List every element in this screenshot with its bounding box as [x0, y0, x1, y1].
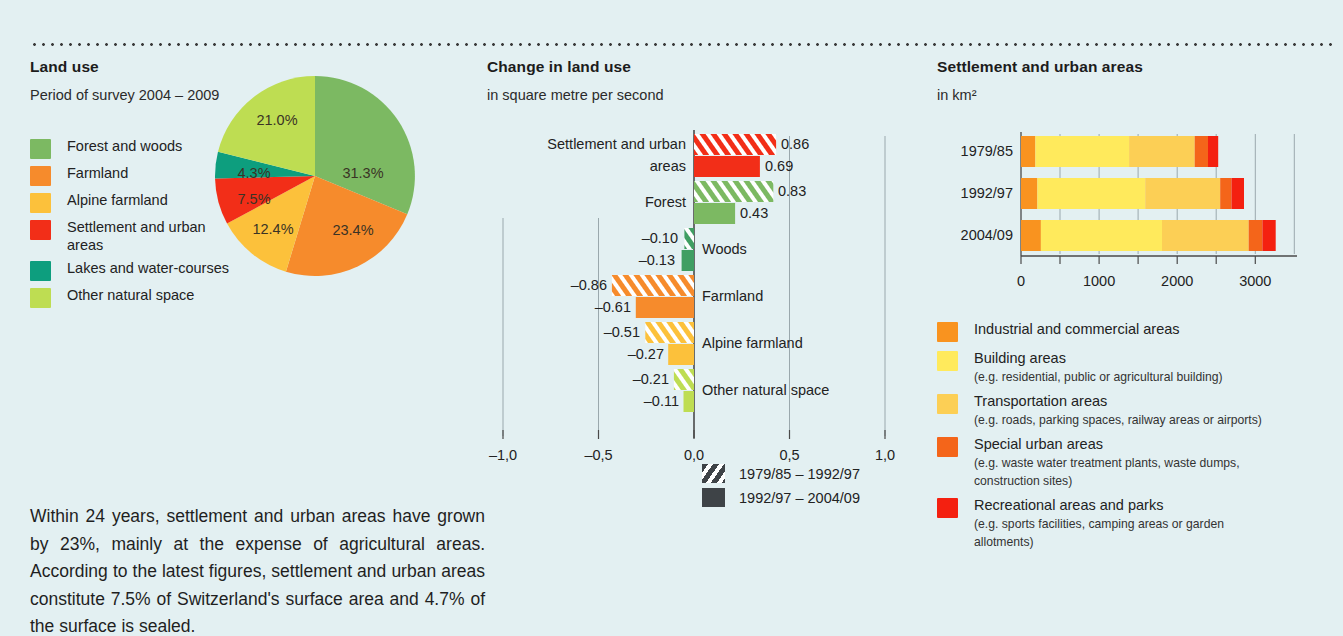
pie-value-lakes: 4.3% — [237, 165, 270, 181]
bar-settlement-1992-2004[interactable] — [694, 156, 760, 177]
settlement-category-2004-09: 2004/09 — [961, 227, 1013, 243]
bar-value-woods-1992-2004: –0.13 — [639, 252, 675, 268]
change-series-legend: 1979/85 – 1992/97 1992/97 – 2004/09 — [702, 464, 860, 512]
legend-label-special-urban: Special urban areas — [974, 436, 1103, 452]
legend-label-other-natural: Other natural space — [67, 287, 194, 305]
bar-value-forest-1979-1992: 0.83 — [778, 183, 806, 199]
bar-category-settlement-line1: Settlement and urban — [547, 136, 686, 152]
segment-industrial-1992[interactable] — [1021, 178, 1037, 209]
bar-category-woods: Woods — [702, 241, 747, 257]
legend-label-period-1979-1992: 1979/85 – 1992/97 — [739, 466, 860, 482]
stacked-bar-1979-85[interactable] — [1021, 136, 1218, 167]
legend-swatch-farmland — [30, 166, 51, 186]
bar-value-farmland-1979-1992: –0.86 — [571, 277, 607, 293]
bar-forest-1992-2004[interactable] — [694, 203, 735, 224]
change-xtick-3: 0,5 — [779, 447, 799, 463]
panel-change-in-land-use: Change in land use in square metre per s… — [487, 58, 907, 104]
settlement-title: Settlement and urban areas — [937, 58, 1337, 76]
bar-woods-1979-1992[interactable] — [684, 228, 694, 249]
settlement-xtick-3000: 3000 — [1239, 273, 1271, 289]
segment-transport-1992[interactable] — [1145, 178, 1220, 209]
segment-industrial-2004[interactable] — [1021, 220, 1041, 251]
top-dotted-divider — [30, 43, 1335, 46]
segment-recreation-1979[interactable] — [1208, 136, 1218, 167]
segment-recreation-2004[interactable] — [1262, 220, 1275, 251]
bar-woods-1992-2004[interactable] — [682, 250, 694, 271]
change-axis-ticks — [503, 430, 885, 439]
legend-item-special-urban[interactable]: Special urban areas (e.g. waste water tr… — [937, 435, 1337, 489]
legend-label-industrial: Industrial and commercial areas — [974, 321, 1180, 337]
legend-swatch-special-urban — [937, 437, 958, 457]
stacked-bar-2004-09[interactable] — [1021, 220, 1276, 251]
legend-item-period-1992-2004[interactable]: 1992/97 – 2004/09 — [702, 488, 860, 507]
legend-swatch-other-natural — [30, 288, 51, 308]
bar-value-other-1992-2004: –0.11 — [644, 393, 679, 409]
change-xtick-1: –0,5 — [584, 447, 612, 463]
settlement-xtick-2000: 2000 — [1161, 273, 1193, 289]
segment-special-1992[interactable] — [1220, 178, 1231, 209]
settlement-xtick-1000: 1000 — [1083, 273, 1115, 289]
segment-special-2004[interactable] — [1249, 220, 1263, 251]
pie-value-settlement: 7.5% — [237, 191, 270, 207]
bar-forest-1979-1992[interactable] — [694, 181, 773, 202]
settlement-svg: 1979/85 1992/97 20 — [937, 120, 1337, 310]
panel-land-use: Land use Period of survey 2004 – 2009 Fo… — [30, 58, 470, 104]
stacked-bar-1992-97[interactable] — [1021, 178, 1244, 209]
segment-building-2004[interactable] — [1041, 220, 1162, 251]
bar-category-forest: Forest — [645, 194, 686, 210]
legend-label-recreational: Recreational areas and parks — [974, 497, 1163, 513]
bar-farmland-1979-1992[interactable] — [612, 275, 694, 296]
bar-value-alpine-1992-2004: –0.27 — [628, 346, 664, 362]
bar-category-other-natural: Other natural space — [702, 382, 829, 398]
legend-label-transport: Transportation areas — [974, 393, 1107, 409]
segment-special-1979[interactable] — [1195, 136, 1208, 167]
pie-value-other-natural: 21.0% — [256, 112, 297, 128]
legend-swatch-hatched — [702, 464, 725, 483]
legend-label-farmland: Farmland — [67, 165, 128, 183]
change-subtitle: in square metre per second — [487, 87, 907, 104]
legend-label-alpine-farmland: Alpine farmland — [67, 192, 168, 210]
settlement-category-1979-85: 1979/85 — [961, 143, 1013, 159]
bar-value-other-1979-1992: –0.21 — [633, 371, 669, 387]
pie-svg: 31.3% 23.4% 12.4% 7.5% 4.3% 21.0% — [205, 68, 440, 283]
land-use-pie-chart: 31.3% 23.4% 12.4% 7.5% 4.3% 21.0% — [205, 68, 440, 288]
legend-note-building: (e.g. residential, public or agricultura… — [974, 370, 1223, 384]
legend-note-transport: (e.g. roads, parking spaces, railway are… — [974, 413, 1262, 427]
legend-item-other-natural[interactable]: Other natural space — [30, 287, 245, 308]
legend-item-transport[interactable]: Transportation areas (e.g. roads, parkin… — [937, 392, 1337, 428]
legend-swatch-transport — [937, 394, 958, 414]
legend-item-recreational[interactable]: Recreational areas and parks (e.g. sport… — [937, 496, 1337, 550]
legend-item-industrial[interactable]: Industrial and commercial areas — [937, 320, 1337, 342]
bar-other-1992-2004[interactable] — [684, 391, 695, 412]
change-xtick-2: 0,0 — [684, 447, 704, 463]
pie-value-forest: 31.3% — [342, 165, 383, 181]
bar-value-settlement-1979-1992: 0.86 — [781, 136, 809, 152]
segment-recreation-1992[interactable] — [1232, 178, 1245, 209]
bar-value-alpine-1979-1992: –0.51 — [604, 324, 640, 340]
bar-alpine-1992-2004[interactable] — [668, 344, 694, 365]
legend-item-period-1979-1992[interactable]: 1979/85 – 1992/97 — [702, 464, 860, 483]
settlement-stacked-bar-chart: 1979/85 1992/97 20 — [937, 120, 1337, 305]
legend-label-period-1992-2004: 1992/97 – 2004/09 — [739, 490, 860, 506]
bar-farmland-1992-2004[interactable] — [636, 297, 694, 318]
bar-value-forest-1992-2004: 0.43 — [740, 205, 768, 221]
legend-note-recreational: (e.g. sports facilities, camping areas o… — [974, 517, 1224, 549]
legend-swatch-solid — [702, 488, 725, 507]
bar-category-settlement-line2: areas — [650, 158, 686, 174]
segment-building-1992[interactable] — [1037, 178, 1145, 209]
segment-transport-1979[interactable] — [1129, 136, 1195, 167]
bar-alpine-1979-1992[interactable] — [645, 322, 694, 343]
segment-industrial-1979[interactable] — [1021, 136, 1035, 167]
legend-swatch-lakes — [30, 261, 51, 281]
change-xtick-4: 1,0 — [875, 447, 895, 463]
bar-other-1979-1992[interactable] — [674, 369, 694, 390]
bar-settlement-1979-1992[interactable] — [694, 134, 776, 155]
bar-value-farmland-1992-2004: –0.61 — [595, 299, 631, 315]
legend-swatch-forest — [30, 139, 51, 159]
bar-value-woods-1979-1992: –0.10 — [642, 230, 678, 246]
summary-paragraph: Within 24 years, settlement and urban ar… — [30, 503, 485, 636]
segment-building-1979[interactable] — [1035, 136, 1129, 167]
legend-item-building[interactable]: Building areas (e.g. residential, public… — [937, 349, 1337, 385]
change-xtick-0: –1,0 — [489, 447, 517, 463]
segment-transport-2004[interactable] — [1162, 220, 1249, 251]
